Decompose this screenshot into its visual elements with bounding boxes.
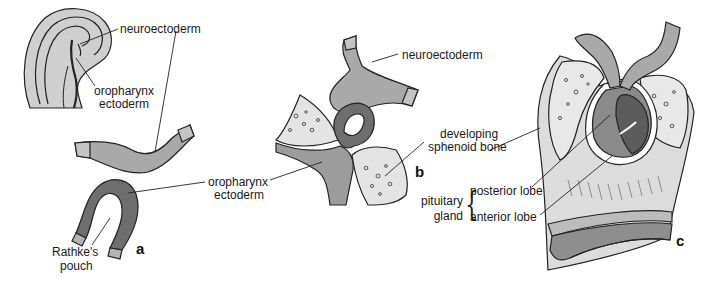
leader-rathkes-pouch bbox=[92, 218, 110, 245]
label-anterior-lobe: anterior lobe bbox=[470, 211, 537, 224]
panel-label-b: b bbox=[415, 163, 424, 180]
diagram-canvas bbox=[0, 0, 713, 284]
leader-oropharynx-mid bbox=[270, 162, 322, 180]
leader-neuroectoderm-a bbox=[155, 31, 176, 152]
leader-neuroectoderm-b bbox=[372, 54, 398, 62]
label-neuroectoderm-b: neuroectoderm bbox=[402, 49, 483, 62]
label-rathkes-pouch-1: Rathke's bbox=[52, 246, 98, 259]
label-sphenoid-2: sphenoid bone bbox=[428, 141, 507, 154]
label-neuroectoderm-inset: neuroectoderm bbox=[120, 23, 201, 36]
label-rathkes-pouch-2: pouch bbox=[60, 260, 93, 273]
panel-b-drawing bbox=[276, 36, 418, 205]
panel-label-c: c bbox=[676, 232, 684, 249]
label-pituitary-2: gland bbox=[410, 210, 463, 223]
neuroectoderm-band-a bbox=[75, 125, 194, 173]
label-oropharynx-mid-2: ectoderm bbox=[214, 189, 264, 202]
leader-oropharynx-a bbox=[128, 182, 205, 193]
panel-c-drawing bbox=[538, 22, 694, 270]
label-posterior-lobe: posterior lobe bbox=[470, 185, 543, 198]
panel-label-a: a bbox=[136, 240, 144, 257]
label-oropharynx-inset-2: ectoderm bbox=[99, 98, 149, 111]
label-pituitary-1: pituitary bbox=[410, 195, 463, 208]
